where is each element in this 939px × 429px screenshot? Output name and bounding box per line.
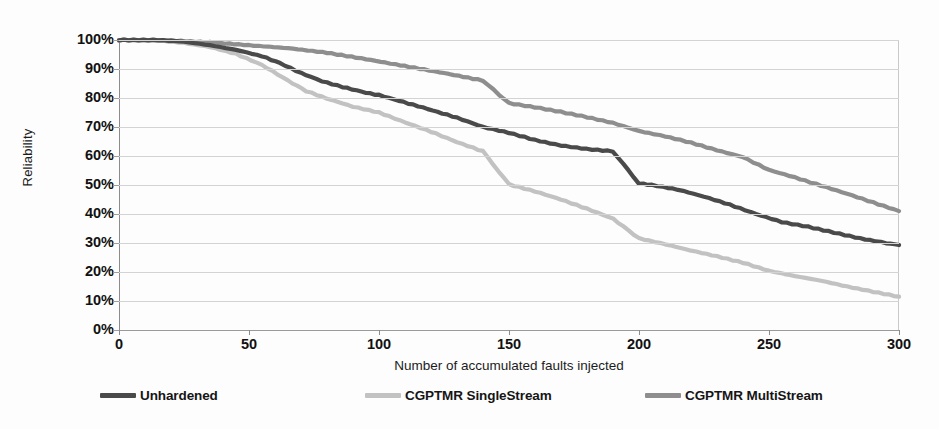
y-tick-label: 20% (56, 264, 114, 279)
y-tick-mark (113, 185, 119, 186)
legend-swatch-icon (100, 393, 136, 398)
gridline (119, 40, 899, 41)
y-tick-mark (113, 98, 119, 99)
legend-swatch-icon (365, 393, 401, 398)
y-tick-label: 90% (56, 61, 114, 76)
gridline (119, 185, 899, 186)
y-tick-mark (113, 127, 119, 128)
x-axis-title: Number of accumulated faults injected (119, 358, 899, 373)
x-tick-label: 300 (864, 337, 934, 352)
legend-label: Unhardened (140, 388, 218, 403)
y-tick-label: 0% (56, 322, 114, 337)
y-tick-label: 100% (56, 32, 114, 47)
reliability-line-chart: Reliability 100%90%80%70%60%50%40%30%20%… (0, 0, 939, 429)
gridline (119, 272, 899, 273)
y-tick-label: 80% (56, 90, 114, 105)
y-tick-label: 60% (56, 148, 114, 163)
gridline (119, 243, 899, 244)
y-axis-tick-labels: 100%90%80%70%60%50%40%30%20%10%0% (56, 31, 114, 330)
legend-item[interactable]: Unhardened (100, 386, 218, 404)
y-tick-label: 30% (56, 235, 114, 250)
legend-label: CGPTMR SingleStream (405, 388, 552, 403)
y-tick-label: 70% (56, 119, 114, 134)
x-tick-mark (899, 330, 900, 335)
x-tick-mark (639, 330, 640, 335)
x-tick-mark (769, 330, 770, 335)
x-axis-tick-labels: 050100150200250300 (0, 337, 939, 359)
x-tick-mark (119, 330, 120, 335)
y-tick-mark (113, 69, 119, 70)
legend-label: CGPTMR MultiStream (685, 388, 823, 403)
x-tick-label: 50 (214, 337, 284, 352)
y-axis-title: Reliability (20, 98, 35, 218)
x-tick-mark (509, 330, 510, 335)
y-tick-label: 50% (56, 177, 114, 192)
x-tick-label: 0 (84, 337, 154, 352)
gridline (119, 156, 899, 157)
plot-area (119, 40, 899, 330)
y-tick-mark (113, 214, 119, 215)
chart-legend: UnhardenedCGPTMR SingleStreamCGPTMR Mult… (100, 386, 900, 406)
x-tick-label: 250 (734, 337, 804, 352)
y-tick-mark (113, 40, 119, 41)
x-tick-mark (249, 330, 250, 335)
y-tick-mark (113, 272, 119, 273)
y-tick-label: 40% (56, 206, 114, 221)
series-line-cgptmr-singlestream (119, 40, 899, 297)
y-tick-mark (113, 156, 119, 157)
x-tick-label: 150 (474, 337, 544, 352)
gridline (119, 69, 899, 70)
x-tick-label: 200 (604, 337, 674, 352)
gridline (119, 98, 899, 99)
x-tick-mark (379, 330, 380, 335)
y-tick-mark (113, 301, 119, 302)
y-tick-mark (113, 243, 119, 244)
legend-item[interactable]: CGPTMR MultiStream (645, 386, 823, 404)
x-tick-label: 100 (344, 337, 414, 352)
legend-swatch-icon (645, 393, 681, 398)
legend-item[interactable]: CGPTMR SingleStream (365, 386, 552, 404)
gridline (119, 301, 899, 302)
gridline (119, 127, 899, 128)
gridline (119, 214, 899, 215)
y-tick-label: 10% (56, 293, 114, 308)
